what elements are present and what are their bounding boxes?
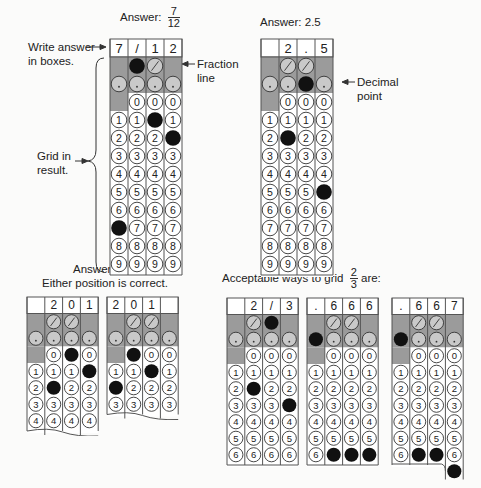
svg-text:5: 5	[398, 433, 403, 444]
svg-text:4: 4	[321, 168, 327, 180]
svg-text:5: 5	[303, 186, 309, 198]
svg-text:3: 3	[398, 400, 403, 411]
svg-text:1: 1	[113, 366, 118, 377]
svg-text:0: 0	[367, 350, 372, 361]
answer-box-1: 2	[50, 298, 57, 312]
svg-text:3: 3	[134, 150, 140, 162]
svg-text:6: 6	[269, 449, 274, 460]
svg-text:5: 5	[152, 186, 158, 198]
svg-text:8: 8	[303, 240, 309, 252]
svg-text:8: 8	[152, 240, 158, 252]
svg-text:3: 3	[434, 400, 439, 411]
svg-text:6: 6	[251, 449, 256, 460]
svg-text:3: 3	[251, 400, 256, 411]
svg-text:6: 6	[452, 449, 457, 460]
svg-text:7: 7	[152, 222, 158, 234]
svg-text:5: 5	[269, 433, 274, 444]
svg-text:6: 6	[116, 204, 122, 216]
svg-text:5: 5	[116, 186, 122, 198]
svg-text:3: 3	[170, 150, 176, 162]
svg-text:2: 2	[87, 382, 92, 393]
svg-text:3: 3	[113, 399, 118, 410]
svg-text:1: 1	[434, 367, 439, 378]
svg-text:2: 2	[233, 383, 238, 394]
svg-text:9: 9	[170, 258, 176, 270]
svg-text:3: 3	[87, 399, 92, 410]
svg-text:4: 4	[69, 415, 74, 426]
svg-text:4: 4	[170, 168, 176, 180]
svg-text:8: 8	[116, 240, 122, 252]
svg-text:4: 4	[367, 416, 372, 427]
svg-text:2: 2	[434, 383, 439, 394]
answer-box-2: 0	[68, 298, 75, 312]
svg-text:4: 4	[33, 415, 38, 426]
svg-text:9: 9	[134, 258, 140, 270]
svg-text:5: 5	[313, 433, 318, 444]
answer-box-3: 5	[320, 41, 327, 56]
svg-text:0: 0	[167, 349, 172, 360]
svg-text:7: 7	[285, 222, 291, 234]
svg-text:2: 2	[313, 383, 318, 394]
svg-text:5: 5	[233, 433, 238, 444]
svg-text:1: 1	[251, 367, 256, 378]
svg-text:0: 0	[269, 350, 274, 361]
svg-text:4: 4	[434, 416, 439, 427]
grid-brace	[88, 58, 104, 272]
svg-text:4: 4	[331, 416, 336, 427]
svg-text:6: 6	[285, 204, 291, 216]
svg-text:3: 3	[167, 399, 172, 410]
svg-text:0: 0	[251, 350, 256, 361]
svg-text:6: 6	[134, 204, 140, 216]
svg-text:0: 0	[51, 349, 56, 360]
svg-text:6: 6	[152, 204, 158, 216]
svg-text:2: 2	[367, 383, 372, 394]
svg-text:8: 8	[134, 240, 140, 252]
svg-text:3: 3	[285, 150, 291, 162]
svg-text:2: 2	[349, 383, 354, 394]
svg-text:9: 9	[303, 258, 309, 270]
svg-text:2: 2	[267, 132, 273, 144]
svg-text:7: 7	[134, 222, 140, 234]
svg-text:1: 1	[33, 366, 38, 377]
svg-text:0: 0	[285, 96, 291, 108]
svg-text:6: 6	[170, 204, 176, 216]
svg-text:0: 0	[349, 350, 354, 361]
svg-text:1: 1	[285, 114, 291, 126]
svg-text:1: 1	[416, 367, 421, 378]
grid-201-right: 2010011122233334444	[26, 296, 99, 436]
answer-box-3: 2	[169, 41, 176, 56]
svg-text:2: 2	[167, 382, 172, 393]
svg-text:1: 1	[367, 367, 372, 378]
svg-text:2: 2	[398, 383, 403, 394]
svg-text:5: 5	[331, 433, 336, 444]
svg-text:4: 4	[303, 168, 309, 180]
svg-text:3: 3	[69, 399, 74, 410]
svg-text:1: 1	[51, 366, 56, 377]
answer-box-0: 7	[115, 41, 122, 56]
svg-text:3: 3	[149, 399, 154, 410]
svg-text:6: 6	[287, 449, 292, 460]
answer-box-1: 6	[415, 299, 422, 313]
svg-text:4: 4	[416, 416, 421, 427]
svg-text:1: 1	[131, 366, 136, 377]
svg-text:2: 2	[416, 383, 421, 394]
svg-text:5: 5	[134, 186, 140, 198]
svg-text:3: 3	[51, 399, 56, 410]
grid-667: .6670001111222233334444555566	[391, 297, 464, 485]
svg-text:5: 5	[251, 433, 256, 444]
svg-text:2: 2	[33, 382, 38, 393]
svg-text:0: 0	[152, 96, 158, 108]
svg-text:9: 9	[321, 258, 327, 270]
grid-7-12: 7/12000111222333344445555666677788889999	[109, 38, 183, 280]
answer-box-1: 6	[330, 299, 337, 313]
svg-text:3: 3	[116, 150, 122, 162]
svg-text:1: 1	[69, 366, 74, 377]
svg-text:4: 4	[452, 416, 457, 427]
svg-text:4: 4	[267, 168, 273, 180]
svg-text:7: 7	[303, 222, 309, 234]
answer-box-2: .	[304, 41, 308, 56]
svg-text:0: 0	[303, 96, 309, 108]
answer-box-0: .	[399, 299, 402, 313]
svg-text:3: 3	[131, 399, 136, 410]
svg-text:3: 3	[303, 150, 309, 162]
